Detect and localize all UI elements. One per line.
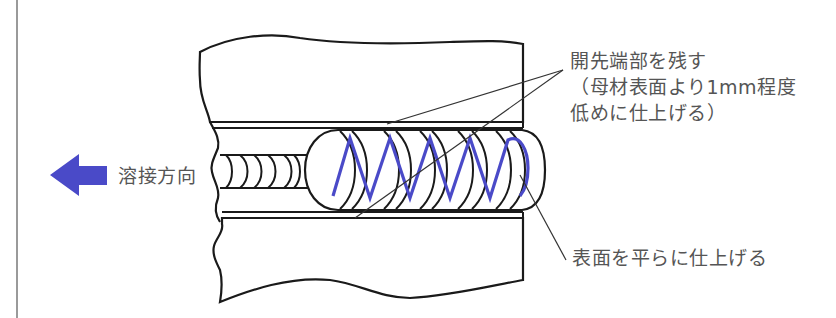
completed-weld-bead	[220, 155, 308, 188]
welding-direction-label: 溶接方向	[118, 163, 196, 189]
groove-callout-line-3: 低めに仕上げる）	[570, 100, 796, 126]
plate-left-edge	[210, 122, 220, 222]
groove-edge-callout: 開先端部を残す （母材表面より1mm程度 低めに仕上げる）	[570, 48, 796, 126]
groove-callout-line-1: 開先端部を残す	[570, 48, 796, 74]
surface-finish-callout: 表面を平らに仕上げる	[572, 245, 767, 271]
bottom-base-plate	[213, 218, 523, 302]
groove-callout-line-2: （母材表面より1mm程度	[570, 74, 796, 100]
top-base-plate	[200, 35, 523, 122]
left-arrow-icon	[50, 154, 107, 196]
